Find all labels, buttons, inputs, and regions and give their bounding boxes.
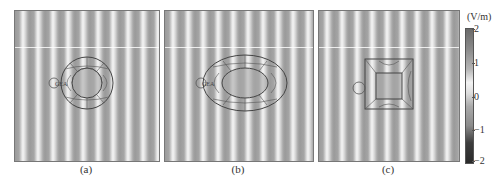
- elliptical-cloak-diagram: GEA: [165, 11, 313, 161]
- caption-c: (c): [373, 163, 403, 175]
- panel-b-field-map: GEA: [164, 10, 314, 162]
- colorbar-unit: (V/m): [467, 11, 491, 22]
- colorbar-tick-0: 0: [474, 92, 479, 102]
- caption-b: (b): [223, 163, 253, 175]
- colorbar-tick-neg2: −2: [474, 156, 485, 166]
- svg-text:GEA: GEA: [55, 81, 68, 87]
- colorbar-tick-1: 1: [474, 58, 479, 68]
- circular-cloak-diagram: GEA: [15, 11, 159, 161]
- svg-text:GEA: GEA: [202, 81, 215, 87]
- panel-a-field-map: GEA: [14, 10, 160, 162]
- panel-c-field-map: [318, 10, 460, 162]
- square-cloak-diagram: [319, 11, 459, 161]
- colorbar: [465, 28, 474, 164]
- caption-a: (a): [71, 163, 101, 175]
- colorbar-tick-neg1: −1: [474, 125, 485, 135]
- colorbar-tick-2: 2: [474, 24, 479, 34]
